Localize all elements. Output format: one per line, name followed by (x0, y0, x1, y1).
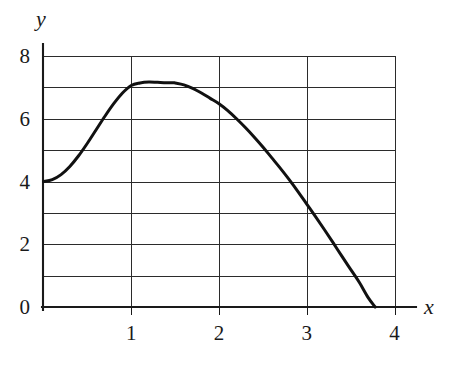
x-tick-label: 4 (383, 323, 407, 344)
y-tick-label: 0 (8, 297, 30, 318)
chart-figure: 02468 1234 y x (0, 0, 452, 370)
x-axis-label: x (424, 296, 434, 318)
y-tick-label: 4 (8, 172, 30, 193)
x-tick-label: 1 (119, 323, 143, 344)
x-tick-label: 2 (207, 323, 231, 344)
plot-area (0, 0, 452, 370)
y-axis-label: y (36, 8, 46, 30)
y-tick-label: 8 (8, 46, 30, 67)
data-curve (44, 82, 376, 307)
y-tick-label: 6 (8, 109, 30, 130)
y-tick-label: 2 (8, 234, 30, 255)
vertical-gridlines (132, 56, 396, 307)
x-tick-label: 3 (295, 323, 319, 344)
